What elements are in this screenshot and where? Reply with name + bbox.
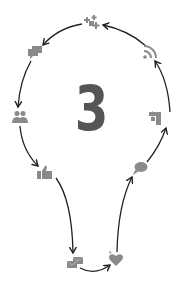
arrow-thumbs-up-to-mail [56, 178, 73, 253]
rss-icon [142, 44, 158, 60]
mail-icon [67, 254, 83, 270]
node-users [12, 109, 28, 125]
heart-icon [108, 251, 124, 267]
center-number: 3 [20, 78, 163, 140]
node-puzzle [84, 14, 100, 30]
node-thumbs-up [37, 164, 53, 180]
node-share [147, 110, 163, 126]
cycle-diagram: 3 [0, 0, 183, 288]
node-speech-bubble [132, 160, 148, 176]
arrow-puzzle-to-chat [43, 24, 82, 45]
chat-icon [27, 44, 43, 60]
puzzle-icon [84, 14, 100, 30]
speech-bubble-icon [132, 160, 148, 176]
arrow-heart-to-speech-bubble [117, 177, 132, 252]
node-chat [27, 44, 43, 60]
share-icon [147, 110, 163, 126]
node-mail [67, 254, 83, 270]
users-icon [12, 109, 28, 125]
arrow-rss-to-puzzle [103, 25, 146, 46]
thumbs-up-icon [37, 164, 53, 180]
node-rss [142, 44, 158, 60]
arrow-mail-to-heart [80, 265, 110, 271]
node-heart [108, 251, 124, 267]
